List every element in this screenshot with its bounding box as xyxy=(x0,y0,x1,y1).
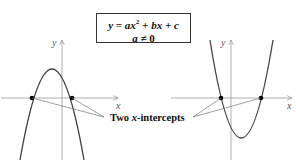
right-parabola xyxy=(210,40,273,138)
right-y-label: y xyxy=(221,37,225,48)
equation-box: y = ax2 + bx + c a ≠ 0 xyxy=(96,13,191,43)
right-graph xyxy=(171,40,292,160)
left-y-label: y xyxy=(52,37,56,48)
left-graph xyxy=(1,40,118,160)
left-x-label: x xyxy=(116,100,120,111)
right-x-label: x xyxy=(287,100,291,111)
left-parabola xyxy=(20,69,84,160)
equation-line-1: y = ax2 + bx + c xyxy=(97,16,190,32)
intercepts-callout: Two x-intercepts xyxy=(110,112,185,123)
quadratic-figure: y x y x y = ax2 + bx + c a ≠ 0 Two x-int… xyxy=(0,0,296,160)
equation-line-2: a ≠ 0 xyxy=(97,32,190,45)
